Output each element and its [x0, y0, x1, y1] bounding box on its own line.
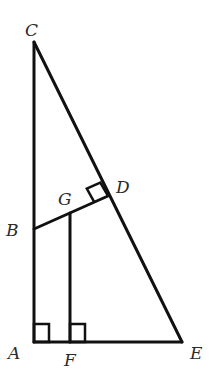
label-b: B	[5, 220, 19, 240]
right-angle-marker-a	[34, 324, 49, 342]
label-a: A	[6, 343, 20, 363]
segment-ce	[34, 42, 182, 342]
label-g: G	[58, 189, 72, 209]
label-d: D	[115, 177, 130, 197]
label-f: F	[63, 350, 77, 370]
geometry-figure: C B G D A F E	[0, 0, 220, 385]
label-e: E	[189, 343, 203, 363]
label-c: C	[25, 20, 38, 40]
right-angle-marker-f	[70, 324, 85, 342]
